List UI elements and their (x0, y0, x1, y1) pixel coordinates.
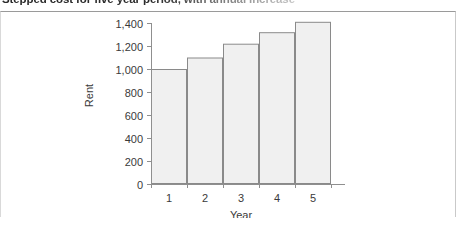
y-tick-label-800: 800 (125, 87, 143, 99)
figure-caption: Stepped cost for five year period, with … (2, 0, 295, 5)
y-tick-label-0: 0 (137, 179, 143, 191)
x-tick-label-2: 2 (202, 192, 208, 204)
y-tick-label-1000: 1,000 (115, 64, 143, 76)
y-tick-label-1200: 1,200 (115, 41, 143, 53)
figure-panel: 02004006008001,0001,2001,400 12345 Rent … (0, 11, 456, 217)
bar-5 (296, 22, 331, 183)
y-tick-label-1400: 1,400 (115, 18, 143, 30)
y-tick-label-400: 400 (125, 133, 143, 145)
x-axis-title: Year (230, 209, 253, 218)
x-tick-label-3: 3 (238, 192, 244, 204)
y-tick-label-600: 600 (125, 110, 143, 122)
bar-2 (188, 58, 223, 184)
y-tick-label-200: 200 (125, 156, 143, 168)
x-tick-label-5: 5 (310, 192, 316, 204)
bar-chart: 02004006008001,0001,2001,400 12345 Rent … (1, 12, 457, 218)
bars-group (152, 22, 331, 183)
x-tick-label-1: 1 (166, 192, 172, 204)
y-tick-labels: 02004006008001,0001,2001,400 (115, 18, 143, 191)
x-tick-label-4: 4 (274, 192, 280, 204)
bar-3 (224, 44, 259, 183)
bar-1 (152, 70, 187, 184)
x-tick-labels: 12345 (166, 192, 316, 204)
y-axis-title: Rent (83, 84, 95, 107)
bar-4 (260, 33, 295, 184)
